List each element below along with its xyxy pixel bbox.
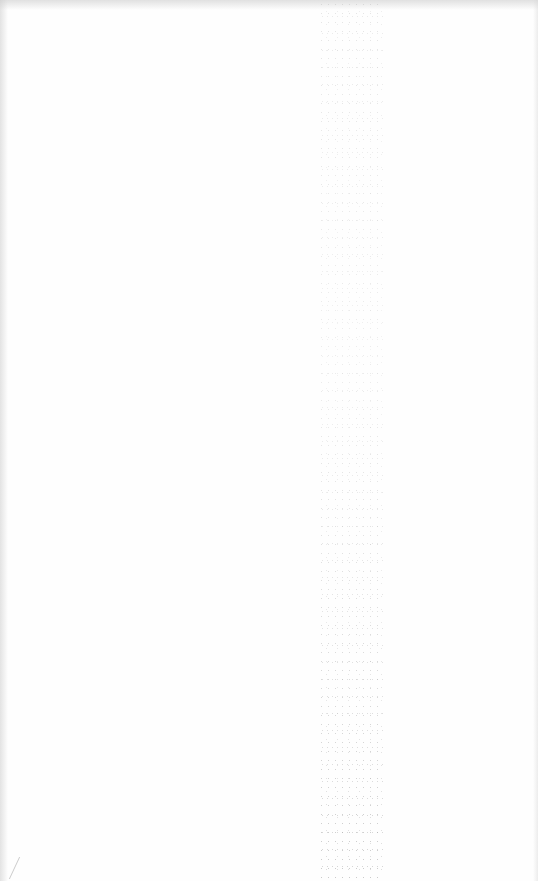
scan-edge-shadow-right: [533, 0, 538, 881]
page-corner-curl: [9, 857, 30, 879]
blank-page: [0, 0, 538, 881]
scan-edge-shadow-left: [0, 0, 8, 881]
scan-noise-band: [318, 0, 384, 881]
scan-edge-shadow-top: [0, 0, 538, 10]
